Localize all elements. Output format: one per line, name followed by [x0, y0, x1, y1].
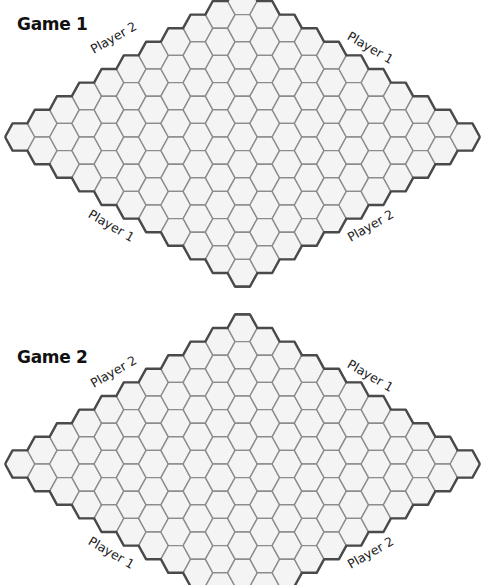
- game-2-title: Game 2: [17, 347, 88, 367]
- game-2-hex-board[interactable]: [0, 0, 485, 585]
- game-2-board-area: Game 2 Player 2 Player 1 Player 1 Player…: [0, 0, 485, 585]
